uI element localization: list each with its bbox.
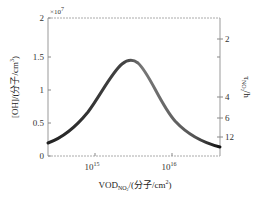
chart: 0 0.5 1 1.5 2 ×107 2 4 6 12 1015 1016 VO… [0,0,260,200]
y-tick-label: 2 [40,13,45,23]
y2-axis-title: τNO2/h [240,76,252,98]
y-axis-title: [OH]/(分子/cm3) [9,56,20,118]
y2-tick-label: 12 [225,132,234,142]
y2-tick-label: 2 [225,34,230,44]
y-tick-label: 0.5 [33,118,45,128]
x-axis-title: VODNO2/(分子/cm2) [98,179,171,192]
y2-tick-label: 4 [225,92,230,102]
x-tick-label: 1015 [85,161,100,172]
y-multiplier: ×107 [50,6,64,16]
y2-tick-label: 6 [225,113,230,123]
y-tick-label: 1.5 [33,52,45,62]
y-tick-label: 0 [40,151,45,161]
x-tick-label: 1016 [162,161,177,172]
oh-curve [48,60,220,147]
y-tick-label: 1 [40,85,45,95]
